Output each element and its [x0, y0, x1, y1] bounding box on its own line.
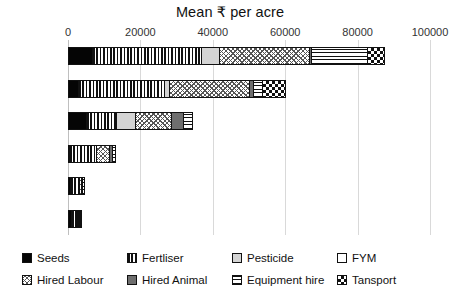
- plot-area: MulberrySugarcanePaddyRagiPulsesCoconut: [68, 40, 430, 235]
- legend-label: FYM: [352, 252, 376, 264]
- chart-legend: SeedsFertliserPesticideFYM Hired LabourH…: [0, 246, 460, 294]
- legend-label: Hired Animal: [142, 274, 207, 286]
- legend-item[interactable]: Fertliser: [127, 248, 232, 268]
- legend-swatch-icon: [232, 253, 242, 263]
- x-tick-label: 100000: [412, 26, 449, 38]
- bar-segment-fert[interactable]: [78, 80, 165, 98]
- bar-segment-seeds[interactable]: [68, 112, 87, 130]
- stacked-bar[interactable]: [68, 210, 82, 228]
- bar-segment-seeds[interactable]: [68, 47, 93, 65]
- chart-row: Mulberry: [68, 40, 430, 73]
- chart-row: Sugarcane: [68, 73, 430, 106]
- bar-segment-hlab[interactable]: [135, 112, 172, 130]
- legend-label: Equipment hire: [247, 274, 324, 286]
- legend-label: Seeds: [37, 252, 70, 264]
- x-tick-label: 20000: [125, 26, 156, 38]
- legend-swatch-icon: [22, 253, 32, 263]
- stacked-bar[interactable]: [68, 112, 193, 130]
- legend-swatch-icon: [127, 275, 137, 285]
- stacked-bar[interactable]: [68, 80, 286, 98]
- stacked-bar[interactable]: [68, 47, 385, 65]
- legend-row-2: Hired LabourHired AnimalEquipment hireTa…: [22, 270, 442, 290]
- legend-item[interactable]: Hired Animal: [127, 270, 232, 290]
- legend-item[interactable]: Hired Labour: [22, 270, 127, 290]
- legend-item[interactable]: Pesticide: [232, 248, 337, 268]
- legend-swatch-icon: [127, 253, 137, 263]
- chart-title: Mean ₹ per acre: [0, 4, 460, 20]
- bar-segment-hlab[interactable]: [219, 47, 310, 65]
- legend-label: Pesticide: [247, 252, 294, 264]
- bar-segment-equip[interactable]: [112, 145, 116, 163]
- bar-segment-trans[interactable]: [367, 47, 385, 65]
- legend-label: Hired Labour: [37, 274, 103, 286]
- legend-item[interactable]: Equipment hire: [232, 270, 337, 290]
- legend-swatch-icon: [337, 253, 347, 263]
- legend-swatch-icon: [22, 275, 32, 285]
- legend-swatch-icon: [337, 275, 347, 285]
- x-tick-label: 60000: [270, 26, 301, 38]
- legend-item[interactable]: Seeds: [22, 248, 127, 268]
- legend-swatch-icon: [232, 275, 242, 285]
- legend-row-1: SeedsFertliserPesticideFYM: [22, 248, 442, 268]
- chart-row: Coconut: [68, 203, 430, 236]
- legend-label: Tansport: [352, 274, 396, 286]
- legend-item[interactable]: FYM: [337, 248, 442, 268]
- chart-container: Mean ₹ per acre 020000400006000080000100…: [0, 0, 460, 298]
- chart-row: Paddy: [68, 105, 430, 138]
- chart-row: Ragi: [68, 138, 430, 171]
- x-tick-label: 80000: [342, 26, 373, 38]
- bar-segment-hlab[interactable]: [96, 145, 110, 163]
- gridline: [430, 40, 431, 235]
- x-tick-label: 40000: [198, 26, 229, 38]
- bar-segment-trans[interactable]: [262, 80, 286, 98]
- stacked-bar[interactable]: [68, 177, 85, 195]
- bar-segment-equip[interactable]: [183, 112, 193, 130]
- bar-segment-fert[interactable]: [92, 47, 202, 65]
- bar-segment-equip[interactable]: [311, 47, 368, 65]
- bar-segment-equip[interactable]: [82, 177, 85, 195]
- legend-label: Fertliser: [142, 252, 184, 264]
- bar-segment-fert[interactable]: [69, 145, 97, 163]
- stacked-bar[interactable]: [68, 145, 116, 163]
- bar-segment-hlab[interactable]: [169, 80, 250, 98]
- x-axis-tick-labels: 020000400006000080000100000: [0, 26, 460, 40]
- legend-item[interactable]: Tansport: [337, 270, 442, 290]
- bar-segment-pest[interactable]: [116, 112, 136, 130]
- bar-segment-fert[interactable]: [86, 112, 117, 130]
- x-tick-label: 0: [65, 26, 71, 38]
- bar-segment-equip[interactable]: [80, 210, 82, 228]
- bar-segment-pest[interactable]: [201, 47, 220, 65]
- chart-row: Pulses: [68, 170, 430, 203]
